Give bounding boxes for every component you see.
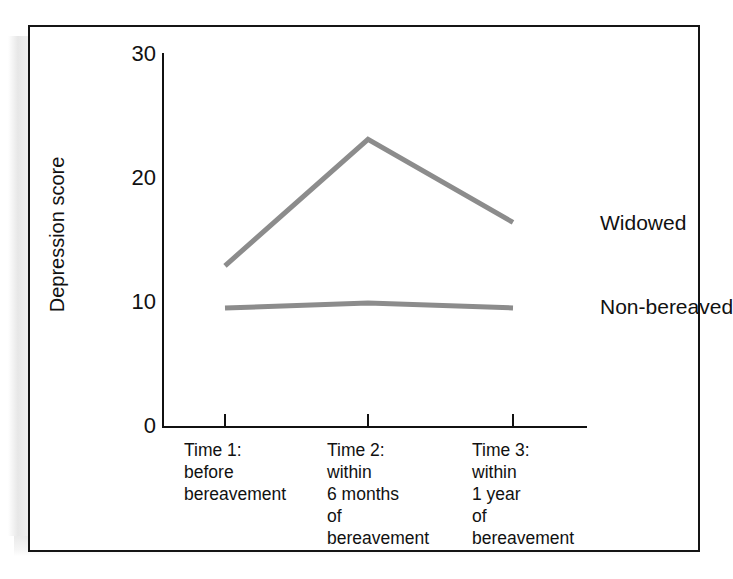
series-lines: [30, 27, 702, 554]
series-line-widowed: [225, 139, 513, 265]
series-label-non-bereaved: Non-bereaved: [600, 295, 733, 319]
figure-frame: Depression score 30 20 10 0 Time 1: befo…: [28, 25, 700, 552]
series-label-widowed: Widowed: [600, 211, 686, 235]
plot-area: Depression score 30 20 10 0 Time 1: befo…: [30, 27, 702, 554]
series-line-non-bereaved: [225, 303, 513, 308]
scan-shadow-left: [8, 36, 30, 536]
